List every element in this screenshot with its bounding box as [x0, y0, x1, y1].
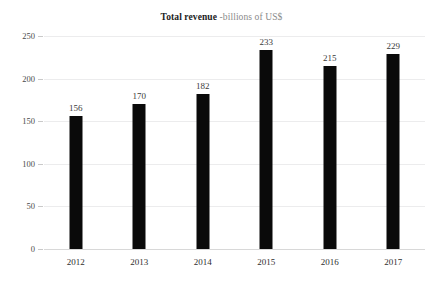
y-axis-label: 0 [31, 245, 35, 254]
plot-area: 050100150200250 156170182233215229 20122… [44, 36, 425, 249]
bar[interactable] [69, 116, 82, 249]
bar-value-label: 233 [260, 37, 274, 47]
y-axis-label: 50 [27, 202, 36, 211]
y-tick-mark [38, 36, 43, 37]
bar[interactable] [260, 50, 273, 249]
y-tick-mark [38, 249, 43, 250]
bar-value-label: 182 [196, 81, 210, 91]
y-tick-mark [38, 164, 43, 165]
bar-chart: Total revenue -billions of US$ 050100150… [0, 0, 443, 284]
bar[interactable] [133, 104, 146, 249]
bar[interactable] [323, 66, 336, 249]
gridline [44, 206, 425, 207]
chart-title: Total revenue -billions of US$ [0, 11, 443, 23]
x-axis-label: 2013 [130, 257, 148, 267]
y-tick-mark [38, 206, 43, 207]
y-axis-label: 250 [22, 32, 35, 41]
y-axis-label: 100 [22, 159, 35, 168]
y-tick-mark [38, 79, 43, 80]
axis-baseline [44, 249, 425, 250]
bar[interactable] [387, 54, 400, 249]
bar-value-label: 229 [387, 41, 401, 51]
chart-title-subtitle: -billions of US$ [217, 12, 282, 22]
bar-value-label: 215 [323, 53, 337, 63]
x-axis-label: 2015 [257, 257, 275, 267]
bar-value-label: 170 [133, 91, 147, 101]
x-axis-label: 2016 [321, 257, 339, 267]
x-axis-label: 2017 [384, 257, 402, 267]
gridline [44, 79, 425, 80]
chart-title-main: Total revenue [161, 12, 217, 22]
gridline [44, 36, 425, 37]
y-tick-mark [38, 121, 43, 122]
gridline [44, 164, 425, 165]
y-axis-label: 150 [22, 117, 35, 126]
bar[interactable] [196, 94, 209, 249]
x-axis-label: 2014 [194, 257, 212, 267]
y-axis-label: 200 [22, 74, 35, 83]
bar-value-label: 156 [69, 103, 83, 113]
gridline [44, 121, 425, 122]
x-axis-label: 2012 [67, 257, 85, 267]
